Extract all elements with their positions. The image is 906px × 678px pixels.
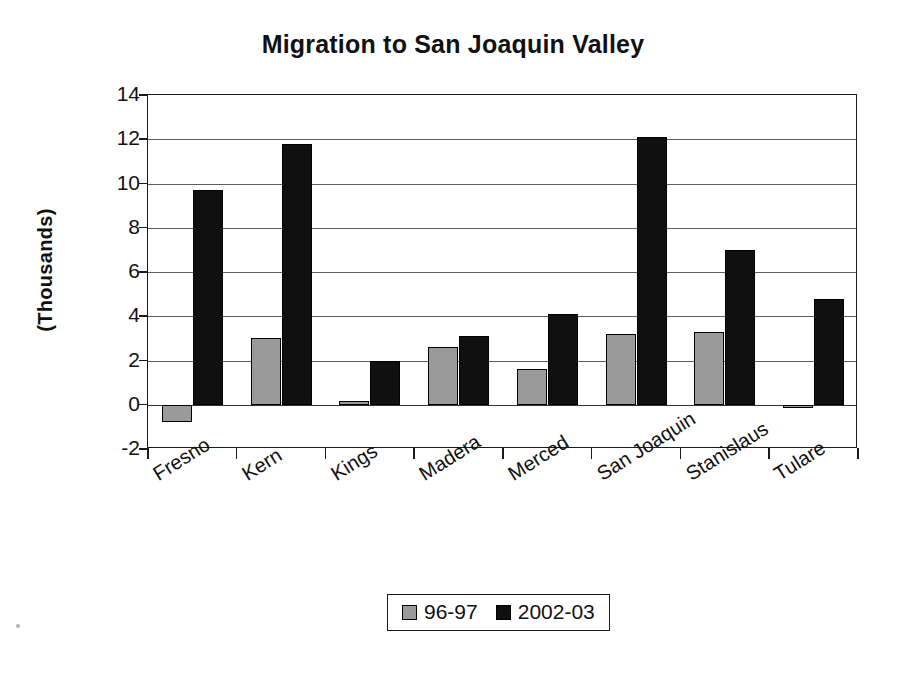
y-tick-mark: [139, 227, 148, 229]
bar-kings-96-97: [339, 401, 369, 404]
legend-label: 2002-03: [518, 600, 595, 624]
chart-legend: 96-972002-03: [387, 594, 610, 631]
bar-stanislaus-2002-03: [725, 250, 755, 405]
y-tick-label: 14: [117, 82, 140, 106]
legend-item: 2002-03: [496, 600, 595, 624]
x-tick-mark: [591, 448, 593, 459]
y-tick-mark: [139, 94, 148, 96]
bar-madera-96-97: [428, 347, 458, 405]
bar-kings-2002-03: [370, 361, 400, 405]
bar-merced-96-97: [517, 369, 547, 404]
x-tick-label: Kern: [238, 444, 286, 486]
bar-madera-2002-03: [459, 336, 489, 405]
x-tick-mark: [768, 448, 770, 459]
y-tick-mark: [139, 404, 148, 406]
plot-area: [147, 94, 857, 448]
bar-fresno-2002-03: [193, 190, 223, 405]
legend-swatch-icon: [496, 605, 511, 620]
x-tick-mark: [680, 448, 682, 459]
x-tick-mark: [502, 448, 504, 459]
bar-kern-96-97: [251, 338, 281, 404]
chart-container: Migration to San Joaquin Valley (Thousan…: [0, 0, 906, 678]
bar-stanislaus-96-97: [694, 332, 724, 405]
bar-merced-2002-03: [548, 314, 578, 405]
y-axis-tick-labels: 14121086420-2: [96, 94, 140, 448]
scan-speck: [16, 624, 20, 628]
y-axis-title: (Thousands): [34, 170, 57, 370]
y-tick-mark: [139, 183, 148, 185]
y-tick-label: 10: [117, 171, 140, 195]
y-tick-mark: [139, 271, 148, 273]
bar-tulare-96-97: [783, 405, 813, 408]
y-tick-label: -2: [121, 436, 140, 460]
legend-item: 96-97: [402, 600, 478, 624]
gridline: [148, 228, 856, 229]
bar-fresno-96-97: [162, 405, 192, 423]
y-tick-mark: [139, 138, 148, 140]
bar-san-joaquin-96-97: [606, 334, 636, 405]
bar-kern-2002-03: [282, 144, 312, 405]
chart-title: Migration to San Joaquin Valley: [0, 30, 906, 59]
bar-san-joaquin-2002-03: [637, 137, 667, 405]
y-tick-mark: [139, 448, 148, 450]
x-tick-mark: [147, 448, 149, 459]
gridline: [148, 405, 856, 406]
x-tick-mark: [236, 448, 238, 459]
legend-label: 96-97: [424, 600, 478, 624]
x-tick-mark: [857, 448, 859, 459]
y-tick-mark: [139, 315, 148, 317]
bar-tulare-2002-03: [814, 299, 844, 405]
gridline: [148, 184, 856, 185]
y-tick-label: 12: [117, 126, 140, 150]
x-tick-mark: [325, 448, 327, 459]
x-tick-mark: [413, 448, 415, 459]
legend-swatch-icon: [402, 605, 417, 620]
y-tick-mark: [139, 360, 148, 362]
gridline: [148, 139, 856, 140]
